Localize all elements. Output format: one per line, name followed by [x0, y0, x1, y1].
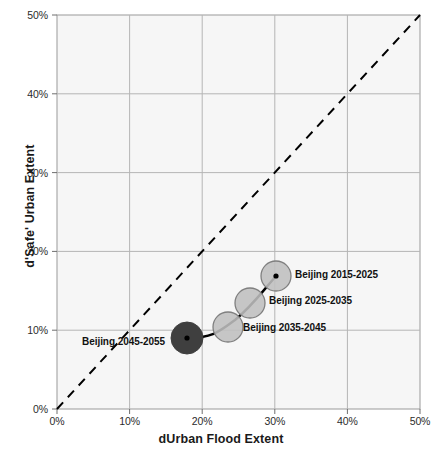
x-tick-label-50: 50% [400, 415, 440, 427]
x-tick-label-20: 20% [182, 415, 222, 427]
plot-canvas [0, 0, 442, 456]
bubble-label-beijing-2045-2055: Beijing 2045-2055 [82, 336, 165, 347]
y-tick-label-50: 50% [14, 9, 48, 21]
x-tick-label-40: 40% [327, 415, 367, 427]
bubble-chart: 50% 40% 30% 20% 10% 0% 0% 10% 20% 30% 40… [0, 0, 442, 456]
bubble-label-beijing-2025-2035: Beijing 2025-2035 [269, 295, 352, 306]
y-axis-title: d'Safe' Urban Extent [23, 86, 37, 326]
x-tick-label-0: 0% [37, 415, 77, 427]
point-marker-2015-2025 [273, 273, 278, 278]
bubble-beijing-2025-2035[interactable] [235, 288, 265, 318]
x-tick-label-10: 10% [110, 415, 150, 427]
bubble-beijing-2035-2045[interactable] [213, 312, 243, 342]
bubble-label-beijing-2035-2045: Beijing 2035-2045 [243, 322, 326, 333]
x-tick-label-30: 30% [255, 415, 295, 427]
x-axis-title: dUrban Flood Extent [0, 432, 442, 446]
bubble-label-beijing-2015-2025: Beijing 2015-2025 [295, 269, 378, 280]
point-marker-2045-2055 [184, 335, 189, 340]
y-tick-label-0: 0% [14, 403, 48, 415]
